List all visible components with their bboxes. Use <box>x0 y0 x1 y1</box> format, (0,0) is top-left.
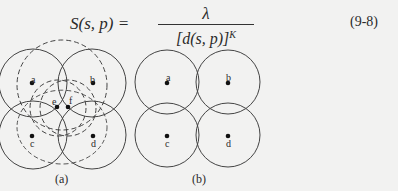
label-a: a <box>31 74 35 85</box>
figure-b <box>135 50 260 167</box>
label-e: e <box>52 96 56 107</box>
label-b-b: b <box>226 72 231 83</box>
caption-b: (b) <box>192 172 206 187</box>
caption-a: (a) <box>55 172 68 187</box>
label-f: f <box>69 95 72 106</box>
label-c: c <box>30 138 34 149</box>
label-b-a: a <box>166 72 170 83</box>
label-b-d: d <box>226 138 231 149</box>
label-b-c: c <box>165 138 169 149</box>
figure-a <box>0 40 126 169</box>
label-b: b <box>90 74 95 85</box>
label-d: d <box>91 138 96 149</box>
figure-diagrams <box>0 0 398 191</box>
